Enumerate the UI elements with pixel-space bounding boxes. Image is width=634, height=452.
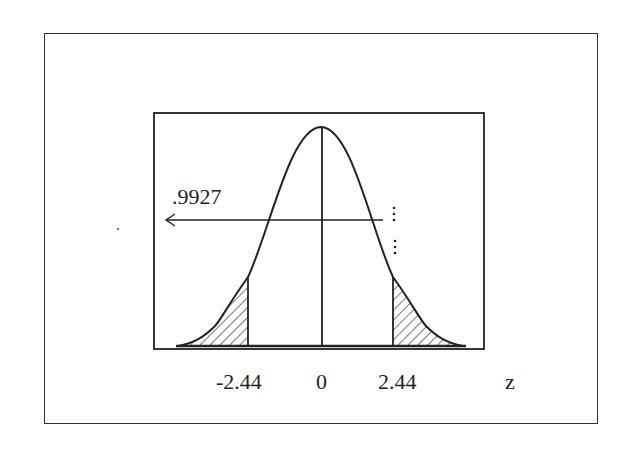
tick-label-zero: 0 — [316, 371, 327, 393]
left-tail-shaded-region — [178, 277, 248, 346]
tick-label-neg: -2.44 — [216, 371, 262, 393]
dotted-indicator — [393, 207, 397, 255]
axis-variable-label: z — [505, 371, 515, 393]
right-tail-shaded-region — [393, 277, 463, 346]
inner-box — [154, 113, 484, 349]
tick-label-pos: 2.44 — [378, 371, 417, 393]
probability-label: .9927 — [172, 186, 222, 208]
bell-curve — [178, 127, 463, 346]
